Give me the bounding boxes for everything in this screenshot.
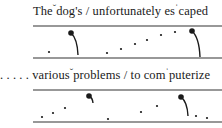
stressed-syllable-dot <box>189 28 195 34</box>
pitch-movement-tail <box>71 33 78 55</box>
unstressed-syllable-dot <box>156 105 158 107</box>
unstressed-syllable-dot <box>106 52 108 54</box>
unstressed-syllable-dot <box>52 112 54 114</box>
unstressed-syllable-dot <box>134 43 136 45</box>
unstressed-syllable-dot <box>140 111 142 113</box>
unstressed-syllable-dot <box>195 115 197 117</box>
unstressed-syllable-dot <box>146 39 148 41</box>
pitch-movement-tail <box>181 97 188 116</box>
pitch-movement-tail <box>192 31 200 57</box>
unstressed-syllable-dot <box>48 51 50 53</box>
stressed-syllable-dot <box>86 93 92 99</box>
unstressed-syllable-dot <box>64 107 66 109</box>
stressed-syllable-dot <box>178 94 184 100</box>
unstressed-syllable-dot <box>41 116 43 118</box>
unstressed-syllable-dot <box>174 31 176 33</box>
unstressed-syllable-dot <box>120 48 122 50</box>
unstressed-syllable-dot <box>160 34 162 36</box>
stressed-syllable-dot <box>68 30 74 36</box>
intonation-contours <box>0 0 222 128</box>
unstressed-syllable-dot <box>107 118 109 120</box>
unstressed-syllable-dot <box>206 117 208 119</box>
